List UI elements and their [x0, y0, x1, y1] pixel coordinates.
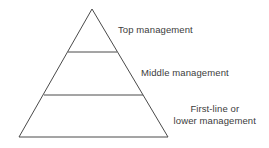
level-label-top-management: Top management — [118, 24, 193, 36]
level-label-middle-management: Middle management — [141, 67, 229, 79]
level-label-lower-management: First-line or lower management — [174, 103, 256, 127]
level-label-lower-line2: lower management — [174, 115, 256, 127]
level-label-lower-line1: First-line or — [174, 103, 256, 115]
